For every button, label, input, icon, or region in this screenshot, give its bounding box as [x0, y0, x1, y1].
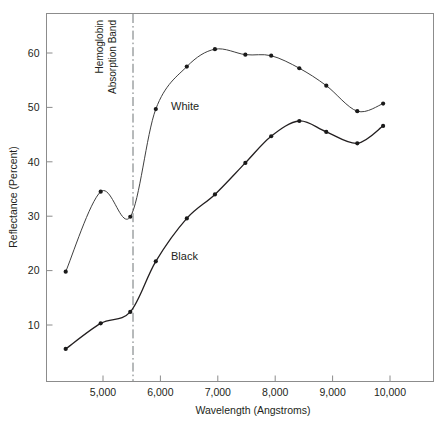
- band-label-line1: Hemoglobin: [94, 20, 105, 73]
- data-point-white: [128, 215, 132, 219]
- chart-figure: 102030405060 5,0006,0007,0008,0009,00010…: [0, 0, 447, 430]
- x-tick-label: 5,000: [90, 386, 116, 398]
- data-point-white: [324, 84, 328, 88]
- x-tick-label: 8,000: [262, 386, 288, 398]
- x-tick-label: 6,000: [147, 386, 173, 398]
- data-point-white: [297, 66, 301, 70]
- y-tick-label: 10: [28, 319, 40, 331]
- y-tick-label: 40: [28, 156, 40, 168]
- data-point-white: [381, 101, 385, 105]
- x-axis-title: Wavelength (Angstroms): [195, 404, 310, 416]
- series-label-white: White: [171, 100, 199, 112]
- data-point-black: [324, 130, 328, 134]
- band-label-line2: Absorption Band: [107, 20, 118, 94]
- data-point-black: [297, 119, 301, 123]
- data-point-white: [185, 65, 189, 69]
- data-point-white: [99, 190, 103, 194]
- data-point-black: [243, 161, 247, 165]
- data-point-white: [64, 270, 68, 274]
- series-label-black: Black: [171, 250, 198, 262]
- data-point-black: [269, 134, 273, 138]
- data-point-white: [154, 107, 158, 111]
- data-point-black: [213, 192, 217, 196]
- y-axis-title: Reflectance (Percent): [7, 146, 19, 248]
- data-point-white: [213, 47, 217, 51]
- data-point-white: [355, 109, 359, 113]
- y-tick-label: 30: [28, 210, 40, 222]
- data-point-black: [99, 321, 103, 325]
- data-point-black: [64, 347, 68, 351]
- reflectance-line-chart: 102030405060 5,0006,0007,0008,0009,00010…: [0, 0, 447, 430]
- x-tick-label: 7,000: [205, 386, 231, 398]
- x-tick-label: 10,000: [374, 386, 406, 398]
- data-point-black: [154, 259, 158, 263]
- chart-background: [0, 0, 447, 430]
- y-tick-label: 20: [28, 264, 40, 276]
- data-point-black: [128, 310, 132, 314]
- data-point-black: [355, 141, 359, 145]
- data-point-black: [381, 124, 385, 128]
- data-point-black: [185, 216, 189, 220]
- data-point-white: [243, 53, 247, 57]
- x-tick-label: 9,000: [319, 386, 345, 398]
- data-point-white: [269, 54, 273, 58]
- y-tick-label: 50: [28, 101, 40, 113]
- y-tick-label: 60: [28, 47, 40, 59]
